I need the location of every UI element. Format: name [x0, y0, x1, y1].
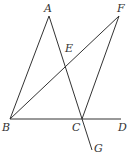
- label-G: G: [94, 142, 103, 155]
- label-A: A: [43, 2, 52, 15]
- segment-BF: [10, 16, 119, 119]
- segment-AG: [49, 16, 92, 150]
- label-E: E: [64, 42, 73, 55]
- label-C: C: [72, 121, 81, 134]
- geometry-diagram: A F E B C D G: [0, 0, 139, 158]
- label-F: F: [116, 2, 125, 15]
- label-D: D: [117, 121, 127, 134]
- segment-FC: [82, 16, 119, 119]
- segment-AB: [10, 16, 49, 119]
- label-B: B: [1, 121, 10, 134]
